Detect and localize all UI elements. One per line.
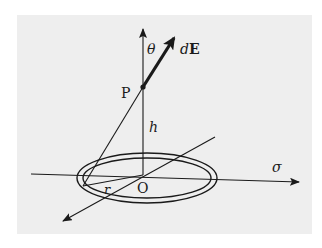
angle-label: θ xyxy=(147,41,156,57)
horizontal-axis xyxy=(31,174,299,182)
sigma-label: σ xyxy=(272,159,282,175)
origin-label: O xyxy=(137,180,148,196)
field-label: dE xyxy=(180,41,200,57)
height-label: h xyxy=(149,119,158,135)
field-label-E: E xyxy=(189,41,200,57)
point-p xyxy=(140,84,145,89)
field-label-d: d xyxy=(180,41,189,57)
ring-field-diagram: θ dE P h O r σ xyxy=(0,0,322,248)
distance-line xyxy=(83,87,143,186)
radius-label: r xyxy=(104,182,111,197)
point-label: P xyxy=(121,85,130,101)
